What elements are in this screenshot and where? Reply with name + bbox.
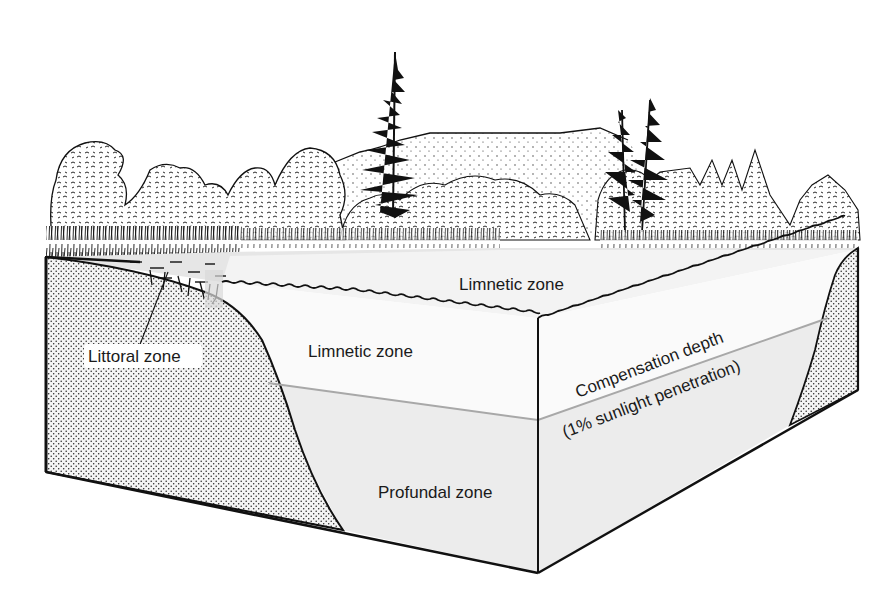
- lake-zonation-diagram: Littoral zone Limnetic zone Limnetic zon…: [0, 0, 895, 603]
- limnetic-zone-front-text: Limnetic zone: [308, 342, 413, 361]
- profundal-zone-text: Profundal zone: [378, 483, 492, 502]
- littoral-zone-text: Littoral zone: [88, 347, 181, 366]
- deciduous-trees-left: [51, 142, 345, 240]
- limnetic-zone-surface-text: Limnetic zone: [459, 275, 564, 294]
